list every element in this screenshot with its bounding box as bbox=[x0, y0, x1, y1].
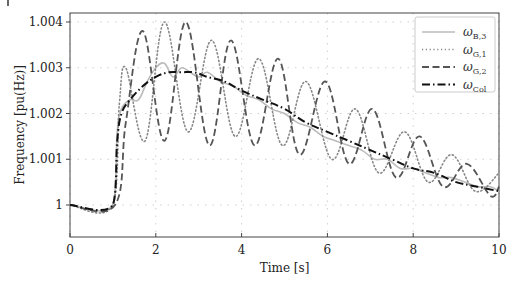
x-tick-label: 4 bbox=[238, 243, 246, 257]
x-tick-label: 0 bbox=[66, 243, 74, 257]
series-line-col bbox=[70, 72, 499, 210]
x-tick-label: 6 bbox=[324, 243, 332, 257]
y-axis-ticks: 11.0011.0021.0031.004 bbox=[29, 15, 70, 212]
y-tick-label: 1 bbox=[55, 198, 63, 212]
frequency-chart: 0246810 11.0011.0021.0031.004 Time [s] F… bbox=[0, 0, 513, 282]
y-tick-label: 1.002 bbox=[29, 107, 63, 121]
x-axis-label: Time [s] bbox=[260, 261, 310, 275]
x-tick-label: 8 bbox=[409, 243, 417, 257]
y-tick-label: 1.001 bbox=[29, 152, 63, 166]
x-tick-label: 2 bbox=[152, 243, 160, 257]
y-tick-label: 1.004 bbox=[29, 15, 64, 29]
legend: ωB,3ωG,1ωG,2ωCol bbox=[415, 17, 495, 94]
y-tick-label: 1.003 bbox=[29, 61, 63, 75]
y-axis-label: Frequency [pu(Hz)] bbox=[13, 65, 27, 185]
x-tick-label: 10 bbox=[491, 243, 506, 257]
